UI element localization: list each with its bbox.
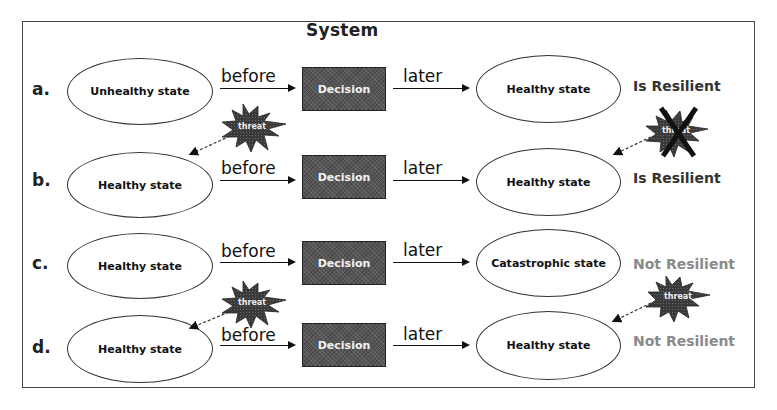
svg-text:threat: threat: [664, 292, 692, 301]
threat-dashed-arrow: [193, 136, 230, 153]
threat-dashed-arrow: [193, 312, 229, 327]
threat-burst-icon: threat: [222, 104, 286, 152]
threat-dashed-arrow: [617, 137, 651, 153]
threat-dashed-arrow: [616, 303, 651, 320]
threat-burst-icon: threat: [222, 281, 286, 328]
svg-text:threat: threat: [238, 122, 266, 131]
threat-burst-icon: threat: [646, 276, 710, 322]
svg-text:threat: threat: [238, 298, 266, 307]
blocked-threat-burst-icon: threat: [646, 108, 708, 157]
threat-overlay: threat threat threat threat: [0, 0, 777, 410]
